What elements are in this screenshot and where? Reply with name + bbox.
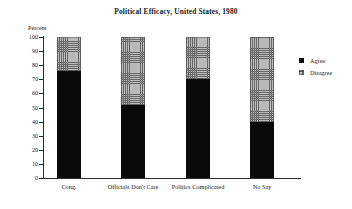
- legend-item: Disagree: [299, 67, 332, 77]
- y-tick-label: 20: [22, 147, 38, 153]
- y-tick-label: 80: [22, 62, 38, 68]
- chart-title: Political Efficacy, United States, 1980: [0, 7, 352, 16]
- y-tick-label: 70: [22, 76, 38, 82]
- legend-item: Agree: [299, 55, 332, 65]
- y-tick-label: 0: [22, 175, 38, 181]
- bar-segment-disagree: [250, 37, 274, 122]
- x-tick-label: No Say: [253, 183, 272, 190]
- y-tick-mark: [39, 93, 43, 94]
- y-axis-label: Percent: [28, 24, 47, 31]
- bar-column: [186, 37, 210, 178]
- x-tick-label: Cong.: [61, 183, 76, 190]
- y-tick-label: 10: [22, 161, 38, 167]
- y-tick-label: 100: [22, 34, 38, 40]
- hatched-gray-square-icon: [299, 70, 304, 75]
- chart-legend: AgreeDisagree: [299, 55, 332, 79]
- y-tick-mark: [39, 108, 43, 109]
- y-tick-label: 90: [22, 48, 38, 54]
- x-tick-label: Politics Complicated: [172, 183, 225, 190]
- y-tick-mark: [39, 79, 43, 80]
- solid-black-square-icon: [299, 58, 304, 63]
- y-tick-mark: [39, 51, 43, 52]
- bar-column: [57, 37, 81, 178]
- y-tick-label: 30: [22, 133, 38, 139]
- bar-segment-disagree: [186, 37, 210, 79]
- y-tick-label: 60: [22, 90, 38, 96]
- y-tick-mark: [39, 122, 43, 123]
- y-tick-mark: [39, 65, 43, 66]
- legend-item-label: Disagree: [310, 69, 332, 76]
- y-tick-mark: [39, 136, 43, 137]
- bar-segment-disagree: [57, 37, 81, 71]
- x-axis-line: [43, 178, 301, 179]
- bar-column: [121, 37, 145, 178]
- legend-item-label: Agree: [310, 57, 325, 64]
- y-tick-mark: [39, 37, 43, 38]
- bar-segment-agree: [57, 71, 81, 178]
- y-tick-label: 50: [22, 105, 38, 111]
- bar-column: [250, 37, 274, 178]
- y-tick-mark: [39, 178, 43, 179]
- bar-segment-agree: [186, 79, 210, 178]
- y-tick-mark: [39, 164, 43, 165]
- chart-canvas: Political Efficacy, United States, 1980 …: [0, 0, 352, 209]
- y-tick-mark: [39, 150, 43, 151]
- x-tick-label: Officials Don't Care: [108, 183, 159, 190]
- y-tick-label: 40: [22, 119, 38, 125]
- plot-area: [44, 37, 300, 178]
- bar-segment-agree: [121, 105, 145, 178]
- bar-segment-disagree: [121, 37, 145, 105]
- bar-segment-agree: [250, 122, 274, 178]
